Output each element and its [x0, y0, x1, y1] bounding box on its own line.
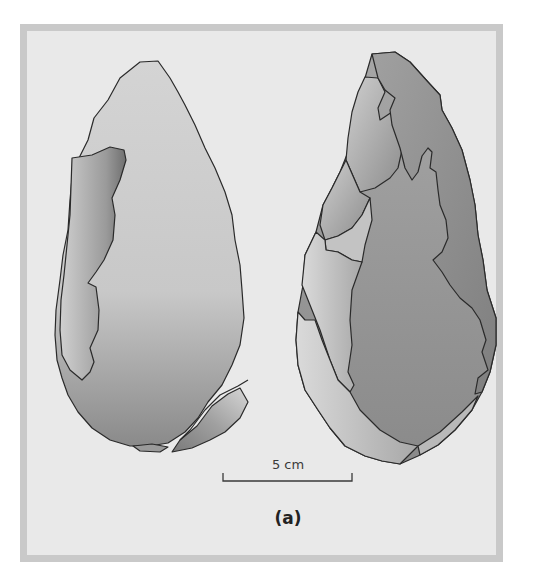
scale-bar	[223, 473, 352, 481]
panel-label: (a)	[258, 508, 318, 528]
handaxe-left-scar-base	[133, 444, 168, 452]
handaxe-right	[296, 52, 496, 464]
scale-bar-label: 5 cm	[262, 457, 314, 472]
handaxe-illustration	[0, 0, 555, 587]
handaxe-left	[55, 61, 248, 452]
